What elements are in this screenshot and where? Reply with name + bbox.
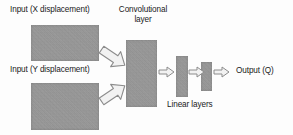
arrow-input-x-to-conv-icon: [99, 45, 129, 71]
arrow-linear-2-to-output-icon: [214, 66, 230, 78]
input-x-label: Input (X displacement): [10, 5, 90, 15]
input-y-label: Input (Y displacement): [10, 65, 90, 75]
output-label: Output (Q): [236, 66, 274, 76]
linear-layer-1-block: [176, 56, 188, 97]
linear-layers-label: Linear layers: [167, 100, 213, 110]
arrow-input-y-to-conv-icon: [99, 80, 129, 106]
convolutional-layer-label: Convolutional layer: [112, 5, 174, 25]
input-x-block: [31, 25, 99, 61]
network-architecture-diagram: Input (X displacement) Input (Y displace…: [0, 0, 293, 135]
convolutional-layer-block: [126, 40, 157, 107]
arrow-linear-1-to-linear-2-icon: [189, 66, 205, 78]
input-y-block: [31, 83, 99, 130]
arrow-conv-to-linear-1-icon: [159, 66, 175, 78]
